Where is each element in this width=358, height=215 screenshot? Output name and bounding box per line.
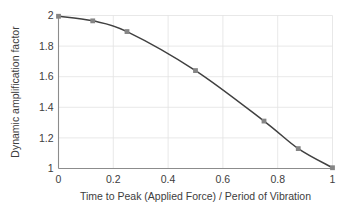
x-axis-tick-label: 0: [56, 173, 62, 185]
y-axis-tick-label: 1.4: [39, 101, 54, 113]
x-axis-tick-label: 0.2: [106, 173, 121, 185]
data-point-marker: [90, 18, 95, 23]
data-point-marker: [330, 165, 335, 170]
y-axis-tick-label: 2: [48, 9, 54, 21]
x-axis-tick-label: 1: [330, 173, 336, 185]
y-axis-tick-label: 1: [48, 162, 54, 174]
y-axis-title: Dynamic amplification factor: [9, 26, 21, 158]
data-point-marker: [262, 119, 267, 124]
data-point-marker: [193, 68, 198, 73]
data-point-marker: [125, 29, 130, 34]
data-point-marker: [56, 14, 61, 19]
x-axis-tick-label: 0.8: [270, 173, 285, 185]
y-axis-tick-label: 1.8: [39, 40, 54, 52]
y-axis-tick-label: 1.6: [39, 70, 54, 82]
data-point-marker: [296, 146, 301, 151]
x-axis-tick-label: 0.6: [216, 173, 231, 185]
x-axis-title: Time to Peak (Applied Force) / Period of…: [80, 190, 311, 202]
chart-container: 11.21.41.61.82 00.20.40.60.81 Time to Pe…: [0, 0, 358, 215]
x-axis-tick-label: 0.4: [161, 173, 176, 185]
line-chart: 11.21.41.61.82 00.20.40.60.81 Time to Pe…: [0, 0, 358, 215]
y-axis-tick-label: 1.2: [39, 132, 54, 144]
